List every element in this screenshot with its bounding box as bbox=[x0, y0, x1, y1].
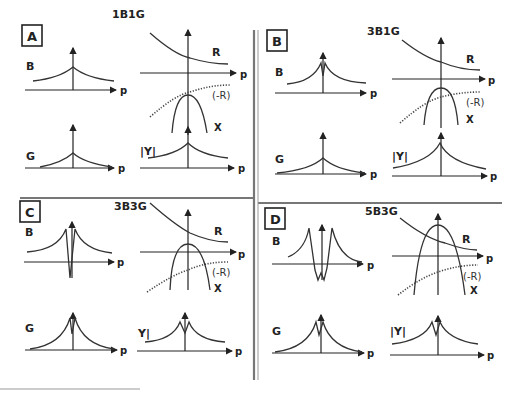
svg-text:p: p bbox=[235, 346, 242, 357]
g-plot: G p bbox=[275, 133, 377, 180]
svg-text:R: R bbox=[212, 46, 221, 59]
b-plot: B p bbox=[24, 222, 124, 278]
rx-plot: p R (-R) X bbox=[392, 38, 495, 128]
y-plot: |Y| p bbox=[392, 133, 497, 182]
svg-text:p: p bbox=[486, 253, 493, 264]
y-plot: |Y| p bbox=[390, 316, 494, 361]
svg-text:p: p bbox=[490, 171, 497, 182]
svg-text:G: G bbox=[272, 325, 281, 338]
svg-text:B: B bbox=[275, 66, 283, 79]
b-label: B bbox=[26, 60, 34, 73]
svg-text:X: X bbox=[470, 285, 478, 296]
svg-text:3B3G: 3B3G bbox=[114, 200, 147, 213]
svg-text:B: B bbox=[272, 34, 282, 49]
rx-plot: p R (-R) X bbox=[392, 214, 493, 296]
svg-text:X: X bbox=[466, 114, 474, 125]
svg-text:|Y|: |Y| bbox=[140, 145, 156, 158]
rx-plot: p R (-R) X bbox=[140, 30, 247, 135]
svg-text:C: C bbox=[25, 205, 35, 220]
panel-title: 1B1G bbox=[112, 8, 145, 21]
y-plot: Y| p bbox=[137, 313, 242, 357]
figure: A 1B1G B p p R (-R) X G p bbox=[0, 0, 517, 401]
svg-text:p: p bbox=[370, 169, 377, 180]
b-plot: B p bbox=[272, 225, 374, 280]
svg-text:p: p bbox=[488, 75, 495, 86]
svg-text:B: B bbox=[25, 226, 33, 239]
svg-text:3B1G: 3B1G bbox=[367, 25, 400, 38]
b-plot: B p bbox=[25, 48, 127, 96]
y-plot: |Y| p bbox=[140, 127, 245, 174]
svg-text:(-R): (-R) bbox=[212, 267, 230, 278]
svg-text:G: G bbox=[275, 153, 284, 166]
rx-plot: p R (-R) X bbox=[140, 203, 245, 294]
svg-text:p: p bbox=[117, 257, 124, 268]
g-plot: G p bbox=[272, 315, 374, 359]
svg-text:X: X bbox=[214, 122, 222, 133]
svg-text:5B3G: 5B3G bbox=[365, 205, 398, 218]
svg-text:p: p bbox=[120, 85, 127, 96]
svg-text:p: p bbox=[238, 163, 245, 174]
svg-text:G: G bbox=[26, 150, 35, 163]
svg-text:p: p bbox=[120, 345, 127, 356]
svg-text:(-R): (-R) bbox=[463, 271, 481, 282]
svg-text:p: p bbox=[118, 163, 125, 174]
svg-text:(-R): (-R) bbox=[466, 97, 484, 108]
svg-text:(-R): (-R) bbox=[212, 90, 230, 101]
svg-text:p: p bbox=[370, 88, 377, 99]
svg-text:|Y|: |Y| bbox=[390, 325, 406, 338]
svg-text:|Y|: |Y| bbox=[392, 150, 408, 163]
svg-text:R: R bbox=[466, 53, 475, 66]
svg-text:p: p bbox=[238, 249, 245, 260]
panel-d: D 5B3G B p p R (-R) X G p bbox=[265, 205, 494, 361]
panel-letter: A bbox=[27, 29, 37, 44]
g-plot: G p bbox=[25, 125, 125, 174]
svg-text:X: X bbox=[214, 283, 222, 294]
svg-text:R: R bbox=[462, 233, 471, 246]
panel-b: B 3B1G B p p R (-R) X G p bbox=[267, 25, 497, 182]
svg-text:R: R bbox=[214, 225, 223, 238]
svg-text:p: p bbox=[487, 350, 494, 361]
svg-text:Y|: Y| bbox=[137, 327, 150, 340]
svg-text:B: B bbox=[272, 235, 280, 248]
svg-text:G: G bbox=[25, 322, 34, 335]
panel-c: C 3B3G B p p R (-R) X G p bbox=[20, 200, 245, 357]
svg-text:p: p bbox=[367, 348, 374, 359]
g-plot: G p bbox=[25, 313, 127, 356]
panel-a: A 1B1G B p p R (-R) X G p bbox=[22, 8, 247, 174]
svg-text:p: p bbox=[240, 69, 247, 80]
svg-text:D: D bbox=[270, 212, 281, 227]
svg-text:p: p bbox=[367, 260, 374, 271]
b-plot: B p bbox=[275, 53, 377, 99]
